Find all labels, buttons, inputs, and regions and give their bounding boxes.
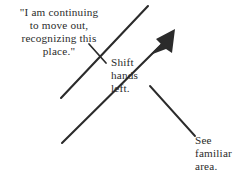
shift-hands-annotation: Shift hands left.: [111, 56, 138, 95]
see-familiar-area-annotation: See familiar area.: [195, 134, 232, 173]
quote-annotation: "I am continuing to move out, recognizin…: [6, 6, 112, 58]
diagram-root: "I am continuing to move out, recognizin…: [0, 0, 246, 187]
familiar-area-leader-line: [150, 86, 195, 136]
